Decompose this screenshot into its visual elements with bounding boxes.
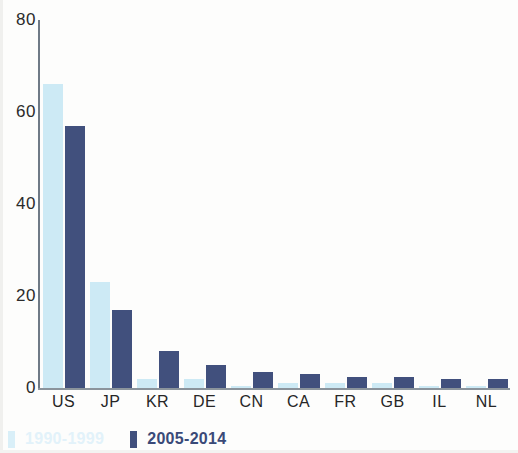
bar-groups: [40, 20, 510, 388]
bar-group: [181, 20, 228, 388]
bar-group: [40, 20, 87, 388]
bar: [65, 126, 85, 388]
bar: [372, 383, 392, 388]
y-axis-tick-labels: 020406080: [0, 0, 36, 453]
bar: [419, 386, 439, 388]
bar: [347, 377, 367, 389]
bar: [300, 374, 320, 388]
bar-group: [87, 20, 134, 388]
x-axis-category-label: DE: [181, 393, 228, 419]
bar: [394, 377, 414, 389]
legend-swatch-icon: [8, 431, 15, 448]
bar-group: [134, 20, 181, 388]
x-axis-category-label: KR: [134, 393, 181, 419]
legend-item[interactable]: 2005-2014: [130, 430, 226, 448]
bar-group: [463, 20, 510, 388]
bar: [278, 383, 298, 388]
bar: [112, 310, 132, 388]
bar: [253, 372, 273, 388]
x-axis-category-label: IL: [416, 393, 463, 419]
bar-group: [416, 20, 463, 388]
bar: [43, 84, 63, 388]
bar: [184, 379, 204, 388]
legend-label: 1990-1999: [25, 430, 104, 448]
bar-group: [228, 20, 275, 388]
y-axis-tick-label: 20: [2, 286, 36, 306]
x-axis-category-label: FR: [322, 393, 369, 419]
bar: [206, 365, 226, 388]
y-axis-tick-label: 0: [2, 378, 36, 398]
legend-label: 2005-2014: [147, 430, 226, 448]
legend-item[interactable]: 1990-1999: [8, 430, 104, 448]
x-axis-category-label: CN: [228, 393, 275, 419]
bar: [159, 351, 179, 388]
bar-group: [369, 20, 416, 388]
legend-swatch-icon: [130, 431, 137, 448]
bar: [325, 383, 345, 388]
bar: [231, 386, 251, 388]
bar: [488, 379, 508, 388]
y-axis-tick-label: 60: [2, 102, 36, 122]
bar: [466, 386, 486, 388]
bar: [137, 379, 157, 388]
bar-group: [322, 20, 369, 388]
y-axis-tick-label: 40: [2, 194, 36, 214]
x-axis-category-label: CA: [275, 393, 322, 419]
bar: [90, 282, 110, 388]
y-axis-tick-label: 80: [2, 10, 36, 30]
x-axis-category-label: US: [40, 393, 87, 419]
x-axis-line: [38, 388, 510, 390]
bar-group: [275, 20, 322, 388]
x-axis-category-labels: USJPKRDECNCAFRGBILNL: [40, 393, 510, 419]
x-axis-category-label: GB: [369, 393, 416, 419]
x-axis-category-label: NL: [463, 393, 510, 419]
x-axis-category-label: JP: [87, 393, 134, 419]
bar: [441, 379, 461, 388]
chart-legend: 1990-19992005-2014: [8, 428, 252, 450]
bar-chart: 020406080 USJPKRDECNCAFRGBILNL 1990-1999…: [0, 0, 518, 453]
